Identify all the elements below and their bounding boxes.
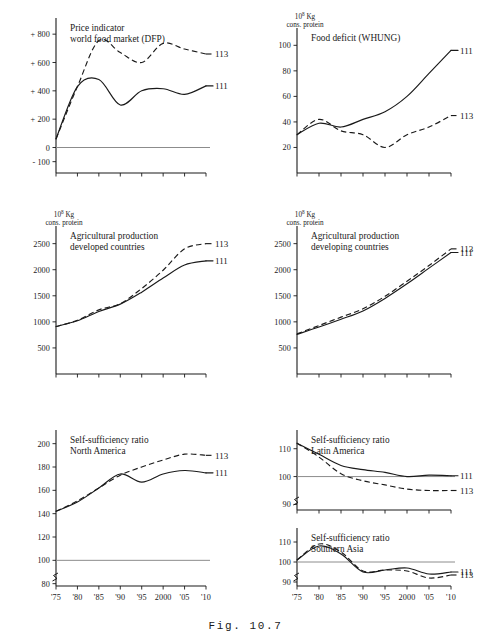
series-line-111 xyxy=(56,470,206,511)
y-tick-label: 1500 xyxy=(33,292,50,301)
series-line-113 xyxy=(56,454,206,511)
y-axis-break-icon xyxy=(294,573,300,581)
series-label-113: 113 xyxy=(215,239,229,249)
y-tick-label: 80 xyxy=(42,580,50,589)
y-tick-label: 100 xyxy=(278,41,291,50)
series-line-113 xyxy=(56,39,206,139)
series-line-111 xyxy=(297,253,451,335)
y-tick-label: 2500 xyxy=(274,240,291,249)
y-tick-label: 0 xyxy=(46,144,50,153)
chart-ssr-latin-america: 11010090Self-sufficiency ratioLatin Amer… xyxy=(255,420,485,520)
y-tick-label: 1000 xyxy=(274,318,291,327)
chart-title-line1: Self-sufficiency ratio xyxy=(311,435,390,445)
series-label-111: 111 xyxy=(215,468,228,478)
chart-title-line1: Self-sufficiency ratio xyxy=(70,435,149,445)
x-tick-label: '75 xyxy=(51,593,61,602)
x-tick-label: '10 xyxy=(446,593,456,602)
chart-title-line1: Agricultural production xyxy=(70,231,158,241)
chart-title-line1: Price indicator xyxy=(70,23,125,33)
y-tick-label: 2500 xyxy=(33,240,50,249)
y-axis-break-icon xyxy=(294,497,300,505)
series-line-113 xyxy=(297,249,451,334)
x-tick-label: '85 xyxy=(336,593,346,602)
axis-unit-magnitude: 108 Kg xyxy=(295,11,316,21)
y-tick-label: 500 xyxy=(37,344,50,353)
y-tick-label: 110 xyxy=(279,538,291,547)
y-tick-label: 90 xyxy=(283,578,291,587)
chart-title-line1: Food deficit (WHUNG) xyxy=(311,33,400,44)
axis-unit-magnitude: 108 Kg xyxy=(54,209,75,219)
chart-title-line2: North America xyxy=(70,446,126,456)
chart-panel-price-indicator: + 800+ 600+ 400+ 2000- 100Price indicato… xyxy=(14,8,240,183)
series-label-111: 111 xyxy=(460,471,473,481)
axis-unit-protein: cons. protein xyxy=(286,21,324,29)
y-tick-label: - 100 xyxy=(32,158,50,167)
y-tick-label: 1000 xyxy=(33,318,50,327)
x-tick-label: '80 xyxy=(72,593,82,602)
chart-panel-ssr-southern-asia: 11010090'75'80'85'90'952000'05'10Self-su… xyxy=(255,518,485,608)
chart-title-line2: world food market (DFP) xyxy=(70,34,165,45)
x-tick-label: 2000 xyxy=(155,593,172,602)
axis-unit-protein: cons. protein xyxy=(286,219,324,227)
x-tick-label: '85 xyxy=(94,593,104,602)
y-tick-label: 120 xyxy=(37,533,50,542)
y-tick-label: + 600 xyxy=(31,59,50,68)
axis-unit-protein: cons. protein xyxy=(45,219,83,227)
y-tick-label: 100 xyxy=(278,558,291,567)
y-tick-label: 2000 xyxy=(33,266,50,275)
chart-panel-ssr-latin-america: 11010090Self-sufficiency ratioLatin Amer… xyxy=(255,420,485,520)
series-label-113: 113 xyxy=(460,570,474,580)
x-tick-label: '05 xyxy=(180,593,190,602)
y-tick-label: + 200 xyxy=(31,115,50,124)
series-label-111: 111 xyxy=(460,46,473,56)
chart-food-deficit: 108 Kgcons. protein10080604020Food defic… xyxy=(255,8,485,183)
series-label-113: 113 xyxy=(215,451,229,461)
series-label-111: 111 xyxy=(215,256,228,266)
y-tick-label: 140 xyxy=(37,510,50,519)
x-tick-label: '80 xyxy=(314,593,324,602)
y-tick-label: 500 xyxy=(278,344,291,353)
series-label-113: 113 xyxy=(460,111,474,121)
chart-price-indicator: + 800+ 600+ 400+ 2000- 100Price indicato… xyxy=(14,8,240,183)
chart-agri-production-developed: 108 Kgcons. protein2500200015001000500Ag… xyxy=(14,206,240,384)
axis-unit-magnitude: 108 Kg xyxy=(295,209,316,219)
x-tick-label: '90 xyxy=(358,593,368,602)
x-tick-label: 2000 xyxy=(399,593,416,602)
figure-caption: Fig. 10.7 xyxy=(0,620,491,632)
y-tick-label: 60 xyxy=(283,92,291,101)
chart-title-line2: developed countries xyxy=(70,242,145,252)
series-line-113 xyxy=(297,116,451,148)
y-tick-label: + 400 xyxy=(31,87,50,96)
chart-panel-food-deficit: 108 Kgcons. protein10080604020Food defic… xyxy=(255,8,485,183)
y-tick-label: 1500 xyxy=(274,292,291,301)
y-tick-label: 100 xyxy=(37,556,50,565)
y-tick-label: 20 xyxy=(283,143,291,152)
series-line-111 xyxy=(56,78,206,139)
series-line-113 xyxy=(56,244,206,327)
y-tick-label: 200 xyxy=(37,440,50,449)
chart-ssr-north-america: 20018016014012010080'75'80'85'90'952000'… xyxy=(14,420,240,608)
y-tick-label: 80 xyxy=(283,67,291,76)
y-tick-label: 100 xyxy=(278,473,291,482)
chart-agri-production-developing: 108 Kgcons. protein2500200015001000500Ag… xyxy=(255,206,485,384)
y-tick-label: 40 xyxy=(283,118,291,127)
y-tick-label: + 800 xyxy=(31,30,50,39)
chart-title-line2: developing countries xyxy=(311,242,389,252)
x-tick-label: '90 xyxy=(115,593,125,602)
series-label-113: 113 xyxy=(460,244,474,254)
chart-title-line1: Agricultural production xyxy=(311,231,399,241)
y-tick-label: 160 xyxy=(37,486,50,495)
series-label-111: 111 xyxy=(215,81,228,91)
y-tick-label: 2000 xyxy=(274,266,291,275)
series-line-111 xyxy=(56,261,206,327)
y-axis-break-icon xyxy=(53,573,59,581)
series-label-113: 113 xyxy=(460,486,474,496)
series-label-113: 113 xyxy=(215,49,229,59)
x-tick-label: '05 xyxy=(424,593,434,602)
y-tick-label: 180 xyxy=(37,463,50,472)
x-tick-label: '10 xyxy=(201,593,211,602)
series-line-111 xyxy=(297,50,451,134)
chart-title-line1: Self-sufficiency ratio xyxy=(311,533,390,543)
chart-panel-ssr-north-america: 20018016014012010080'75'80'85'90'952000'… xyxy=(14,420,240,608)
x-tick-label: '95 xyxy=(137,593,147,602)
